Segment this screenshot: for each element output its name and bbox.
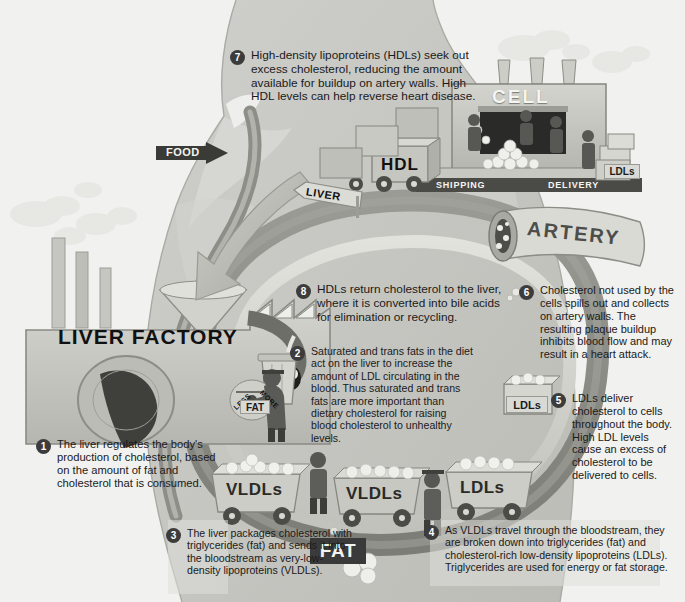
callout-7-badge: 7 (230, 50, 245, 65)
callout-8-text: HDLs return cholesterol to the liver, wh… (296, 283, 508, 324)
callout-7: 7 High-density lipoproteins (HDLs) seek … (230, 49, 476, 104)
shipping-dock-label: SHIPPING (436, 180, 485, 190)
callout-2-badge: 2 (290, 346, 305, 361)
callout-5: 5 LDLs deliver cholesterol to cells thro… (551, 392, 679, 482)
callout-4-text: As VLDLs travel through the bloodstream,… (424, 524, 674, 574)
callout-6-badge: 6 (519, 285, 534, 300)
hdl-truck-label: HDL (381, 155, 419, 175)
callout-1-text: The liver regulates the body's productio… (36, 438, 220, 490)
callout-8: 8 HDLs return cholesterol to the liver, … (296, 283, 508, 324)
callout-5-badge: 5 (551, 393, 566, 408)
callout-5-text: LDLs deliver cholesterol to cells throug… (551, 392, 679, 482)
ldl-crate-label: LDLs (506, 396, 548, 413)
callout-6: 6 Cholesterol not used by the cells spil… (519, 284, 679, 361)
cell-label: CELL (492, 86, 550, 108)
callout-1: 1 The liver regulates the body's product… (36, 438, 220, 490)
callout-1-badge: 1 (36, 439, 51, 454)
cart-ldl-label: LDLs (460, 478, 505, 498)
callout-4-badge: 4 (424, 525, 439, 540)
callout-6-text: Cholesterol not used by the cells spills… (519, 284, 679, 361)
callout-3: 3 The liver packages cholesterol with tr… (166, 527, 352, 577)
callout-7-text: High-density lipoproteins (HDLs) seek ou… (230, 49, 476, 104)
callout-3-text: The liver packages cholesterol with trig… (166, 527, 352, 577)
callout-3-badge: 3 (166, 528, 181, 543)
callout-4: 4 As VLDLs travel through the bloodstrea… (424, 524, 674, 574)
callout-8-badge: 8 (296, 284, 311, 299)
callout-2: 2 Saturated and trans fats in the diet a… (290, 345, 474, 444)
liver-factory-label: LIVER FACTORY (58, 325, 238, 349)
callout-2-text: Saturated and trans fats in the diet act… (290, 345, 474, 444)
ldl-boxes-label: LDLs (604, 164, 640, 179)
infographic-canvas: FOOD LIVER LIVER FACTORY LESS MORE FAT C… (0, 0, 685, 602)
cart-vldl-1-label: VLDLs (226, 480, 282, 500)
delivery-dock-label: DELIVERY (548, 180, 599, 190)
cart-vldl-2-label: VLDLs (346, 484, 402, 504)
food-label: FOOD (166, 146, 200, 158)
fat-worker-sign: FAT (240, 400, 270, 414)
